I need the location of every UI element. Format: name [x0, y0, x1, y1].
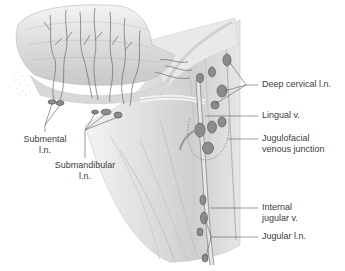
label-internal-jugular-line-2: jugular v. — [262, 213, 298, 224]
label-jugulofacial-line-1: Jugulofacial — [262, 133, 310, 144]
submandibular-node-1 — [92, 110, 99, 114]
label-submandibular-line-1: Submandibular — [52, 160, 118, 171]
label-lingual-vein: Lingual v. — [262, 110, 300, 121]
submental-node-2 — [56, 101, 64, 106]
label-deep-cervical-ln: Deep cervical l.n. — [262, 79, 331, 90]
submandibular-node-2 — [101, 109, 111, 115]
label-submental-line-2: l.n. — [20, 145, 70, 156]
label-internal-jugular-line-1: Internal — [262, 202, 292, 213]
label-jugular-ln: Jugular l.n. — [262, 231, 306, 242]
anatomical-figure: Deep cervical l.n. Lingual v. Jugulofaci… — [0, 0, 345, 271]
label-jugulofacial-line-2: venous junction — [262, 144, 325, 155]
submental-node-1 — [48, 100, 56, 104]
label-submental-line-1: Submental — [20, 134, 70, 145]
label-submandibular-line-2: l.n. — [52, 171, 118, 182]
